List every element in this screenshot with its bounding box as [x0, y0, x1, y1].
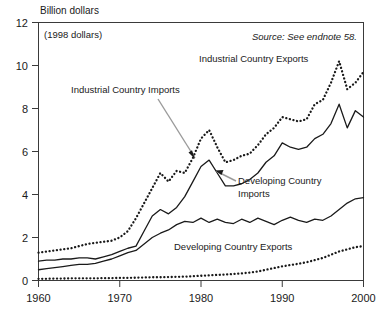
- x-tick-1990: 1990: [270, 292, 294, 304]
- y-tick-6: 6: [22, 146, 28, 158]
- y-axis-ticks: [32, 23, 39, 281]
- x-tick-1980: 1980: [189, 292, 213, 304]
- chart-container: 12 10 8 6 4 2 0 1960 1970 1980 1990 2000…: [0, 0, 387, 314]
- industrial-country-exports-label: Industrial Country Exports: [199, 53, 309, 64]
- industrial-country-imports-label: Industrial Country Imports: [71, 84, 180, 95]
- x-tick-2000: 2000: [351, 292, 375, 304]
- y-tick-0: 0: [22, 275, 28, 287]
- developing-country-exports-label: Developing Country Exports: [174, 241, 293, 252]
- developing-country-imports-label-line1: Developing Country: [238, 175, 322, 186]
- y-tick-10: 10: [16, 60, 28, 72]
- developing-country-imports-label-line2: Imports: [238, 188, 270, 199]
- y-tick-4: 4: [22, 189, 28, 201]
- x-tick-1970: 1970: [108, 292, 132, 304]
- x-axis-ticks: [39, 281, 364, 288]
- y-tick-2: 2: [22, 232, 28, 244]
- y-tick-12: 12: [16, 17, 28, 29]
- source-note: Source: See endnote 58.: [252, 31, 357, 42]
- y-tick-8: 8: [22, 103, 28, 115]
- line-chart: 12 10 8 6 4 2 0 1960 1970 1980 1990 2000…: [0, 0, 387, 314]
- x-tick-1960: 1960: [26, 292, 50, 304]
- currency-basis-label: (1998 dollars): [44, 29, 102, 40]
- y-axis-title: Billion dollars: [40, 5, 99, 16]
